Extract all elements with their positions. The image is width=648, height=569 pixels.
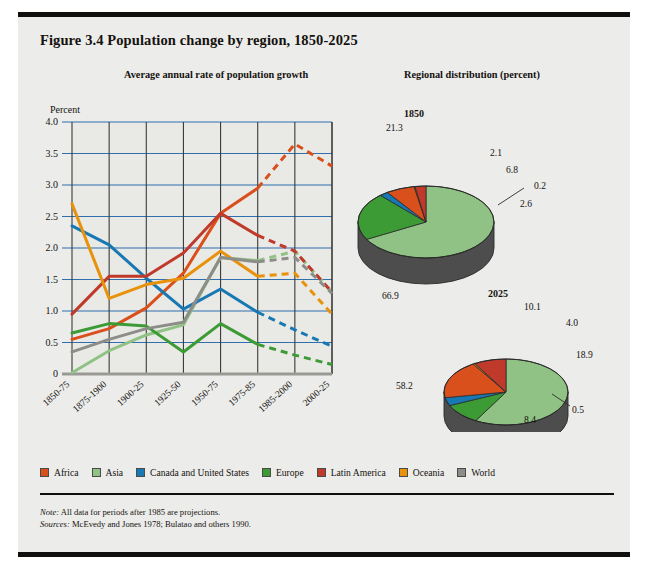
legend-label: Europe (276, 467, 304, 478)
legend-label: Latin America (331, 467, 386, 478)
legend-item-europe: Europe (262, 467, 304, 478)
svg-text:1900-25: 1900-25 (114, 378, 145, 408)
y-axis-tick-label: 2.5 (46, 211, 59, 222)
line-chart-heading: Average annual rate of population growth (124, 69, 308, 80)
pie-charts-svg (338, 92, 630, 432)
legend-item-world: World (457, 467, 495, 478)
x-axis-tick-label: 1900-25 (114, 378, 145, 408)
figure-panel: Figure 3.4 Population change by region, … (18, 12, 630, 557)
pie-1850-label-0: 66.9 (382, 290, 399, 301)
bottom-rule (18, 552, 630, 557)
line-chart: Percent 00.51.01.52.02.53.03.54.01850-75… (30, 92, 342, 432)
legend-swatch-icon (317, 468, 326, 477)
figure-notes: Note: All data for periods after 1985 ar… (40, 507, 560, 530)
y-axis-tick-label: 2.0 (46, 242, 59, 253)
legend-swatch-icon (457, 468, 466, 477)
svg-text:1985-2000: 1985-2000 (256, 378, 294, 414)
pie-1850-label-3: 6.8 (506, 164, 518, 175)
legend-swatch-icon (136, 468, 145, 477)
legend-label: Oceania (413, 467, 444, 478)
figure-title: Figure 3.4 Population change by region, … (40, 32, 358, 49)
legend-swatch-icon (92, 468, 101, 477)
legend-rule (40, 493, 614, 495)
y-axis-tick-label: 3.0 (46, 179, 59, 190)
legend-item-latin-america: Latin America (317, 467, 386, 478)
legend-label: Canada and United States (150, 467, 249, 478)
y-axis-tick-label: 3.5 (46, 148, 59, 159)
pie-2025-title: 2025 (488, 288, 508, 299)
pie-1850-label-4: 0.2 (534, 180, 546, 191)
note-label: Note: (40, 507, 59, 517)
svg-text:2000-25: 2000-25 (300, 378, 331, 408)
legend-label: Africa (54, 467, 79, 478)
y-axis-tick-label: 0.5 (46, 337, 59, 348)
sources-text: McEvedy and Jones 1978; Bulatao and othe… (72, 519, 251, 529)
x-axis-tick-label: 1950-75 (189, 378, 220, 408)
svg-text:1875-1900: 1875-1900 (70, 378, 108, 414)
svg-text:1850-75: 1850-75 (40, 378, 71, 408)
pie-1850-label-2: 2.1 (490, 147, 502, 158)
legend-item-africa: Africa (40, 467, 79, 478)
top-rule (18, 12, 630, 17)
x-axis-tick-label: 1875-1900 (70, 378, 108, 414)
note-text: All data for periods after 1985 are proj… (61, 507, 220, 517)
legend-item-canada-and-united-states: Canada and United States (136, 467, 249, 478)
legend-swatch-icon (399, 468, 408, 477)
x-axis-tick-label: 1975-85 (226, 378, 257, 408)
pie-1850-label-5: 2.6 (520, 198, 532, 209)
svg-text:1975-85: 1975-85 (226, 378, 257, 408)
legend-label: World (471, 467, 495, 478)
legend-label: Asia (106, 467, 124, 478)
legend: AfricaAsiaCanada and United StatesEurope… (40, 460, 616, 484)
x-axis-tick-label: 2000-25 (300, 378, 331, 408)
y-axis-tick-label: 1.0 (46, 305, 59, 316)
x-axis-tick-label: 1985-2000 (256, 378, 294, 414)
pie-charts: 1850 2025 21.32.16.80.22.666.910.14.018.… (338, 92, 630, 432)
legend-item-asia: Asia (92, 467, 124, 478)
x-axis-tick-label: 1925-50 (152, 378, 183, 408)
pie-2025-label-0: 58.2 (396, 380, 413, 391)
y-axis-tick-label: 4.0 (46, 116, 59, 127)
svg-text:1950-75: 1950-75 (189, 378, 220, 408)
pie-2025-label-5: 8.4 (524, 414, 536, 425)
pie-2025-label-4: 0.5 (572, 404, 584, 415)
y-axis-tick-label: 1.5 (46, 274, 59, 285)
pie-2025-label-2: 4.0 (566, 317, 578, 328)
pie-1850-title: 1850 (404, 108, 424, 119)
y-axis-tick-label: 0 (53, 368, 58, 379)
svg-text:1925-50: 1925-50 (152, 378, 183, 408)
sources-line: Sources: McEvedy and Jones 1978; Bulatao… (40, 519, 560, 531)
x-axis-tick-label: 1850-75 (40, 378, 71, 408)
pie-2025-label-1: 10.1 (524, 301, 541, 312)
legend-swatch-icon (40, 468, 49, 477)
pie-1850-label-1: 21.3 (386, 122, 403, 133)
pie-charts-heading: Regional distribution (percent) (404, 69, 540, 80)
legend-item-oceania: Oceania (399, 467, 444, 478)
line-chart-svg: 00.51.01.52.02.53.03.54.01850-751875-190… (30, 92, 342, 432)
note-line: Note: All data for periods after 1985 ar… (40, 507, 560, 519)
pie-2025-label-3: 18.9 (576, 349, 593, 360)
legend-swatch-icon (262, 468, 271, 477)
sources-label: Sources: (40, 519, 70, 529)
